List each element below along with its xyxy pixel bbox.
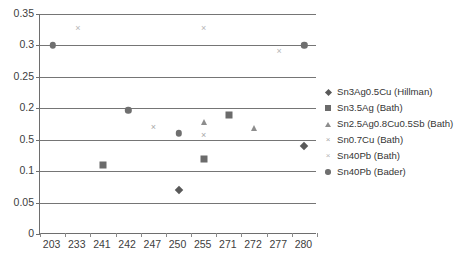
data-point[interactable]: × bbox=[150, 123, 157, 130]
y-tick-mark bbox=[36, 14, 40, 15]
x-tick-mark bbox=[191, 233, 192, 237]
x-tick-label: 255 bbox=[194, 238, 212, 250]
x-tick-label: 241 bbox=[93, 238, 111, 250]
x-tick-label: 272 bbox=[244, 238, 262, 250]
x-tick-label: 280 bbox=[295, 238, 313, 250]
data-point[interactable]: × bbox=[74, 24, 81, 31]
x-tick-mark bbox=[292, 233, 293, 237]
legend-item[interactable]: Sn2.5Ag0.8Cu0.5Sb (Bath) bbox=[322, 116, 458, 132]
legend-marker-square-icon bbox=[322, 101, 334, 115]
data-point[interactable] bbox=[200, 155, 207, 162]
data-point[interactable] bbox=[99, 161, 106, 168]
legend-label: Sn2.5Ag0.8Cu0.5Sb (Bath) bbox=[337, 117, 453, 131]
y-tick-label: 0.05 bbox=[14, 197, 34, 208]
gridline bbox=[40, 14, 316, 15]
data-point[interactable] bbox=[301, 42, 307, 48]
y-tick-label: 0.3 bbox=[19, 39, 34, 50]
x-tick-mark bbox=[40, 233, 41, 237]
x-tick-mark bbox=[141, 233, 142, 237]
x-tick-label: 247 bbox=[144, 238, 162, 250]
y-tick-mark bbox=[36, 203, 40, 204]
legend-swatch-shape bbox=[324, 88, 331, 95]
data-point[interactable]: × bbox=[276, 48, 283, 55]
legend-label: Sn0.7Cu (Bath) bbox=[337, 133, 403, 147]
x-axis-labels: 203233241242247250255271272277280 bbox=[39, 238, 316, 254]
y-tick-mark bbox=[36, 140, 40, 141]
x-tick-mark bbox=[65, 233, 66, 237]
y-tick-label: 0.35 bbox=[14, 8, 34, 19]
gridline bbox=[40, 108, 316, 109]
legend-item[interactable]: ×Sn0.7Cu (Bath) bbox=[322, 132, 458, 148]
y-tick-label: 0.25 bbox=[14, 71, 34, 82]
x-tick-mark bbox=[166, 233, 167, 237]
x-tick-label: 271 bbox=[219, 238, 237, 250]
legend-swatch-shape bbox=[325, 122, 331, 127]
data-point[interactable] bbox=[49, 42, 55, 48]
legend-marker-cross-icon: × bbox=[322, 133, 334, 147]
y-axis-labels: 0.350.30.250.20.50.10.050 bbox=[0, 14, 34, 234]
legend-label: Sn3.5Ag (Bath) bbox=[337, 101, 403, 115]
legend-marker-diamond-icon bbox=[322, 85, 334, 99]
legend-marker-triangle-icon bbox=[322, 117, 334, 131]
legend-item[interactable]: Sn40Pb (Bader) bbox=[322, 164, 458, 180]
gridline bbox=[40, 77, 316, 78]
data-point[interactable] bbox=[225, 112, 232, 119]
data-point[interactable] bbox=[174, 186, 182, 194]
x-tick-mark bbox=[267, 233, 268, 237]
y-tick-mark bbox=[36, 108, 40, 109]
x-tick-label: 242 bbox=[118, 238, 136, 250]
legend-label: Sn40Pb (Bath) bbox=[337, 149, 400, 163]
x-tick-mark bbox=[241, 233, 242, 237]
legend-swatch-shape: × bbox=[326, 152, 331, 160]
y-tick-label: 0.5 bbox=[19, 134, 34, 145]
data-point[interactable] bbox=[201, 119, 207, 125]
legend-label: Sn3Ag0.5Cu (Hillman) bbox=[337, 85, 432, 99]
x-tick-label: 233 bbox=[68, 238, 86, 250]
x-tick-label: 250 bbox=[169, 238, 187, 250]
x-tick-mark bbox=[116, 233, 117, 237]
legend-label: Sn40Pb (Bader) bbox=[337, 165, 406, 179]
y-tick-label: 0.2 bbox=[19, 102, 34, 113]
data-point[interactable] bbox=[251, 125, 257, 131]
legend-marker-circle-icon bbox=[322, 165, 334, 179]
scatter-chart: 0.350.30.250.20.50.10.050 ××××× 20323324… bbox=[0, 0, 460, 261]
x-tick-mark bbox=[317, 233, 318, 237]
y-tick-mark bbox=[36, 45, 40, 46]
gridline bbox=[40, 171, 316, 172]
data-point[interactable]: × bbox=[200, 131, 207, 138]
legend-marker-cross-light-icon: × bbox=[322, 149, 334, 163]
legend-item[interactable]: Sn3.5Ag (Bath) bbox=[322, 100, 458, 116]
data-point[interactable]: × bbox=[200, 24, 207, 31]
legend-swatch-shape bbox=[325, 169, 331, 175]
y-tick-label: 0 bbox=[28, 228, 34, 239]
x-tick-label: 203 bbox=[43, 238, 61, 250]
y-tick-mark bbox=[36, 171, 40, 172]
y-tick-mark bbox=[36, 77, 40, 78]
gridline bbox=[40, 140, 316, 141]
x-tick-mark bbox=[216, 233, 217, 237]
gridline bbox=[40, 45, 316, 46]
legend-item[interactable]: Sn3Ag0.5Cu (Hillman) bbox=[322, 84, 458, 100]
gridline bbox=[40, 203, 316, 204]
legend-swatch-shape bbox=[325, 105, 331, 111]
plot-area: ××××× bbox=[39, 14, 316, 234]
x-tick-label: 277 bbox=[269, 238, 287, 250]
data-point[interactable] bbox=[300, 142, 308, 150]
chart-legend: Sn3Ag0.5Cu (Hillman)Sn3.5Ag (Bath)Sn2.5A… bbox=[322, 84, 458, 180]
x-tick-mark bbox=[90, 233, 91, 237]
legend-item[interactable]: ×Sn40Pb (Bath) bbox=[322, 148, 458, 164]
data-point[interactable] bbox=[125, 107, 131, 113]
legend-swatch-shape: × bbox=[326, 136, 331, 144]
data-point[interactable] bbox=[175, 130, 181, 136]
y-tick-label: 0.1 bbox=[19, 165, 34, 176]
